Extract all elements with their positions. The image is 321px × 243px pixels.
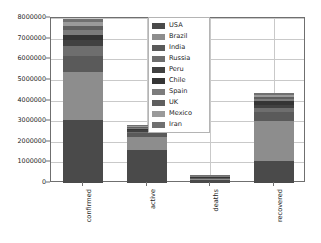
- x-axis-tick-label: deaths: [212, 189, 220, 211]
- legend-item-label: India: [169, 44, 185, 51]
- legend-item-label: Peru: [169, 66, 184, 73]
- legend-item-label: Mexico: [169, 110, 192, 117]
- bar-segment: [254, 105, 294, 108]
- legend-swatch-icon: [152, 45, 165, 51]
- legend-item-label: USA: [169, 22, 183, 29]
- legend-swatch-icon: [152, 23, 165, 29]
- y-axis-tick-label: 4000000: [2, 96, 46, 104]
- y-axis-tick-label: 5000000: [2, 75, 46, 83]
- legend-item-label: Brazil: [169, 33, 187, 40]
- x-axis-tick-label: recovered: [276, 189, 284, 222]
- bar-segment: [127, 137, 167, 149]
- y-axis-tick-label: 2000000: [2, 137, 46, 145]
- bar-segment: [254, 108, 294, 113]
- bar-segment: [254, 99, 294, 101]
- bar-segment: [63, 22, 103, 26]
- bar-segment: [190, 175, 230, 176]
- bar-segment: [127, 133, 167, 137]
- legend-item: Russia: [152, 53, 206, 64]
- legend-swatch-icon: [152, 78, 165, 84]
- bar-segment: [254, 97, 294, 99]
- bar-segment: [63, 19, 103, 22]
- bar-segment: [127, 150, 167, 183]
- legend-item-label: Chile: [169, 77, 186, 84]
- legend-item: UK: [152, 97, 206, 108]
- bar-segment: [63, 56, 103, 72]
- legend-item: Brazil: [152, 31, 206, 42]
- legend-item-label: Iran: [169, 121, 182, 128]
- y-axis-tick-label: 1000000: [2, 157, 46, 165]
- legend-item-label: Russia: [169, 55, 190, 62]
- legend-item: Mexico: [152, 108, 206, 119]
- legend-item: Spain: [152, 86, 206, 97]
- legend-item: India: [152, 42, 206, 53]
- chart-legend: USABrazilIndiaRussiaPeruChileSpainUKMexi…: [148, 17, 210, 133]
- legend-swatch-icon: [152, 67, 165, 73]
- x-axis-tick-label: confirmed: [85, 189, 93, 222]
- bar-segment: [190, 177, 230, 178]
- bar-segment: [63, 40, 103, 46]
- legend-swatch-icon: [152, 56, 165, 62]
- legend-item: Iran: [152, 119, 206, 130]
- bar-segment: [254, 121, 294, 161]
- bar-segment: [63, 26, 103, 30]
- y-axis-tick-label: 8000000: [2, 13, 46, 21]
- y-axis-tick-label: 3000000: [2, 116, 46, 124]
- chart-figure: 0100000020000003000000400000050000006000…: [0, 0, 321, 243]
- legend-swatch-icon: [152, 111, 165, 117]
- bar-segment: [63, 35, 103, 41]
- bar-segment: [190, 180, 230, 183]
- y-axis-tick-label: 0: [2, 178, 46, 186]
- bar-segment: [254, 95, 294, 97]
- legend-item: Chile: [152, 75, 206, 86]
- legend-item-label: UK: [169, 99, 178, 106]
- legend-swatch-icon: [152, 34, 165, 40]
- bar-segment: [63, 120, 103, 183]
- y-axis-tick-label: 6000000: [2, 54, 46, 62]
- bar-segment: [63, 46, 103, 56]
- x-axis-tick-label: active: [149, 189, 157, 209]
- bar-segment: [254, 161, 294, 183]
- bar-segment: [63, 30, 103, 35]
- legend-item: Peru: [152, 64, 206, 75]
- legend-item-label: Spain: [169, 88, 187, 95]
- y-axis-tick-label: 7000000: [2, 34, 46, 42]
- bar-segment: [254, 101, 294, 105]
- bar-segment: [63, 72, 103, 120]
- bar-segment: [190, 175, 230, 176]
- bar-segment: [254, 93, 294, 95]
- legend-swatch-icon: [152, 100, 165, 106]
- legend-swatch-icon: [152, 89, 165, 95]
- legend-swatch-icon: [152, 122, 165, 128]
- legend-item: USA: [152, 20, 206, 31]
- bar-segment: [254, 112, 294, 121]
- gridline-vertical: [210, 18, 211, 181]
- bar-segment: [190, 176, 230, 177]
- bar-segment: [190, 178, 230, 180]
